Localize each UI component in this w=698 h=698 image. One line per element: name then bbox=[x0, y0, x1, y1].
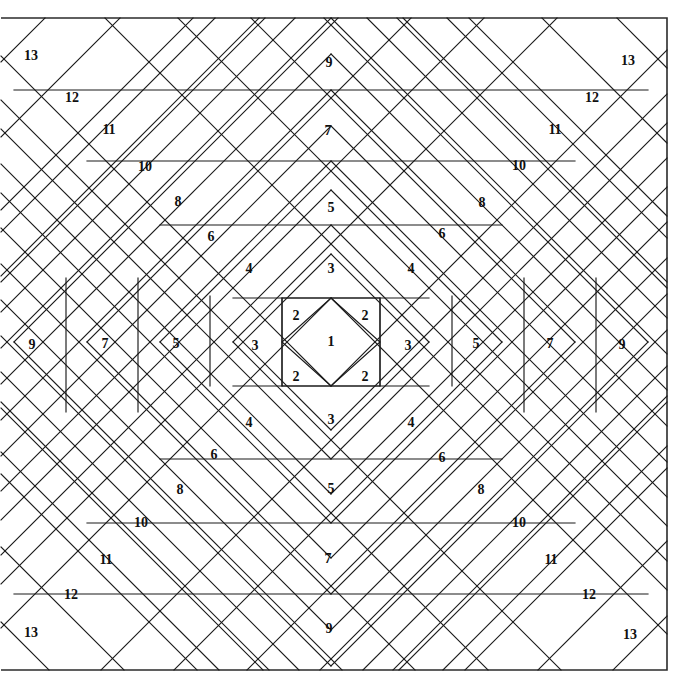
cell-label-ring9-top: 9 bbox=[326, 55, 333, 70]
diamond-apex-0-br bbox=[331, 50, 667, 386]
diamond-apex-3-tr bbox=[331, 190, 667, 526]
cell-label-ring8-top-right: 8 bbox=[479, 195, 486, 210]
cell-label-ring7-top: 7 bbox=[325, 123, 332, 138]
cell-label-band12-bottom-left: 12 bbox=[64, 587, 78, 602]
cell-label-center-diamond: 1 bbox=[328, 334, 335, 349]
cell-label-ring9-right: 9 bbox=[619, 337, 626, 352]
corner-band-1-bl-dn bbox=[160, 342, 488, 670]
cell-label-ring7-right: 7 bbox=[547, 336, 554, 351]
corner-band-4-bl-dn bbox=[1, 402, 269, 670]
cell-label-ring9-bottom: 9 bbox=[326, 621, 333, 636]
cell-label-ring5-top: 5 bbox=[328, 200, 335, 215]
corner-band-2-bl-dn bbox=[87, 342, 415, 670]
corner-band-3-tr-up bbox=[324, 18, 648, 342]
diamond-apex-0-tr bbox=[331, 298, 667, 634]
diamond-apex-6-br bbox=[331, 258, 667, 594]
cell-label-ring3-bottom: 3 bbox=[328, 412, 335, 427]
cell-label-corner13-bottom-left: 13 bbox=[24, 625, 38, 640]
corner-band-2-tl-up bbox=[87, 18, 411, 342]
cell-label-ring4-top-right: 4 bbox=[408, 261, 415, 276]
corner-band-2-tr-up bbox=[251, 18, 575, 342]
cell-label-band10-bottom-right: 10 bbox=[512, 515, 526, 530]
pattern-label-layer: 1222233334444555566667777888899991010101… bbox=[24, 48, 637, 642]
corner-band-0-br-dn bbox=[101, 342, 429, 670]
cell-label-ring8-bottom-left: 8 bbox=[177, 482, 184, 497]
corner-band-1-tl-up bbox=[160, 18, 484, 342]
cell-label-ring4-bottom-right: 4 bbox=[408, 415, 415, 430]
figure-root: 1222233334444555566667777888899991010101… bbox=[0, 0, 698, 698]
cell-label-ring6-top-left: 6 bbox=[208, 229, 215, 244]
cell-label-band11-top-left: 11 bbox=[102, 122, 115, 137]
cell-label-band11-bottom-left: 11 bbox=[99, 552, 112, 567]
cell-label-ring3-top: 3 bbox=[328, 261, 335, 276]
cell-label-band12-top-right: 12 bbox=[585, 90, 599, 105]
cell-label-ring4-bottom-left: 4 bbox=[246, 415, 253, 430]
cell-label-ring6-bottom-left: 6 bbox=[211, 447, 218, 462]
corner-band-6-tl-up bbox=[1, 18, 120, 137]
cell-label-ring8-bottom-right: 8 bbox=[478, 482, 485, 497]
cell-label-ring6-bottom-right: 6 bbox=[439, 450, 446, 465]
cell-label-band11-top-right: 11 bbox=[548, 122, 561, 137]
cell-label-inner-corner-bottom-right: 2 bbox=[362, 369, 369, 384]
corner-band-1-br-dn bbox=[174, 342, 502, 670]
cell-label-ring7-left: 7 bbox=[102, 336, 109, 351]
cell-label-band10-top-right: 10 bbox=[512, 158, 526, 173]
cell-label-corner13-bottom-right: 13 bbox=[623, 627, 637, 642]
cell-label-ring5-left: 5 bbox=[173, 336, 180, 351]
corner-band-1-tr-up bbox=[178, 18, 502, 342]
cell-label-ring5-bottom: 5 bbox=[328, 481, 335, 496]
diamond-apex-3-br bbox=[331, 158, 667, 494]
cell-label-inner-corner-top-left: 2 bbox=[293, 308, 300, 323]
cell-label-ring9-left: 9 bbox=[29, 337, 36, 352]
cell-label-band10-bottom-left: 10 bbox=[134, 515, 148, 530]
cell-label-ring3-left: 3 bbox=[252, 338, 259, 353]
corner-band-5-tl-up bbox=[1, 18, 193, 210]
cell-label-band12-top-left: 12 bbox=[65, 90, 79, 105]
cell-label-ring6-top-right: 6 bbox=[439, 226, 446, 241]
corner-band-3-tl-up bbox=[14, 18, 338, 342]
diamond-apex-2-tr bbox=[331, 225, 667, 561]
cell-label-ring8-top-left: 8 bbox=[175, 194, 182, 209]
cell-label-band12-bottom-right: 12 bbox=[582, 587, 596, 602]
diamond-apex-10-bl bbox=[1, 408, 263, 670]
cell-label-ring4-top-left: 4 bbox=[246, 261, 253, 276]
cell-label-ring3-right: 3 bbox=[405, 338, 412, 353]
diamond-apex-2-br bbox=[331, 123, 667, 459]
nested-diamond-pattern: 1222233334444555566667777888899991010101… bbox=[0, 0, 698, 698]
corner-band-4-tl-up bbox=[1, 18, 265, 282]
corner-band-7-br-dn bbox=[613, 616, 667, 670]
corner-band-2-br-dn bbox=[247, 342, 575, 670]
corner-band-7-tl-up bbox=[1, 18, 45, 62]
cell-label-band10-top-left: 10 bbox=[138, 159, 152, 174]
corner-band-0-bl-dn bbox=[233, 342, 561, 670]
diamond-apex-5-tl bbox=[1, 126, 331, 456]
diamond-apex-6-tr bbox=[331, 90, 667, 426]
diamond-apex-5-bl bbox=[1, 228, 331, 558]
cell-label-band11-bottom-right: 11 bbox=[544, 552, 557, 567]
cell-label-inner-corner-top-right: 2 bbox=[362, 308, 369, 323]
cell-label-corner13-top-left: 13 bbox=[24, 48, 38, 63]
cell-label-ring5-right: 5 bbox=[473, 336, 480, 351]
cell-label-ring7-bottom: 7 bbox=[325, 551, 332, 566]
cell-label-corner13-top-right: 13 bbox=[621, 53, 635, 68]
cell-label-inner-corner-bottom-left: 2 bbox=[293, 369, 300, 384]
